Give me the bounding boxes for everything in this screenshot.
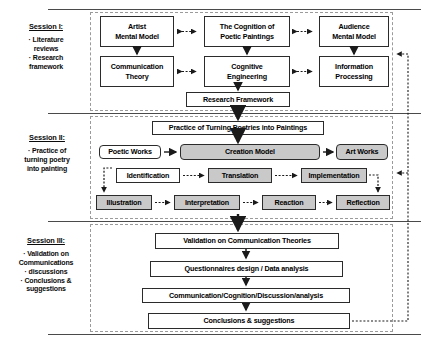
session-2-bullet-0-line-1: turning poetry — [6, 156, 88, 165]
session-3-bullet-1-line-0: · discussions — [2, 268, 90, 277]
node-reflection[interactable]: Reflection — [336, 195, 390, 210]
session-2-bullet-0-line-0: · Practice of — [6, 147, 88, 156]
session-1-title: Session I: — [6, 22, 86, 31]
session-3-caption: Session III: · Validation on Communicati… — [2, 236, 90, 294]
node-poetic-works[interactable]: Poetic Works — [99, 145, 161, 159]
node-research-framework[interactable]: Research Framework — [186, 92, 290, 107]
session-divider-bottom — [48, 334, 421, 335]
node-reaction[interactable]: Reaction — [262, 195, 316, 210]
session-3-bullet-0-line-0: · Validation on — [2, 250, 90, 259]
session-divider-1-2 — [48, 113, 421, 114]
session-divider-top — [48, 9, 421, 10]
session-3-bullet-2-line-0: · Conclusions & — [2, 277, 90, 286]
session-3-bullet-0-line-1: Communications — [2, 259, 90, 268]
node-communication-theory[interactable]: CommunicationTheory — [100, 56, 174, 87]
session-1-caption: Session I: · Literature reviews · Resear… — [6, 22, 86, 71]
node-cognition-poetic-paintings[interactable]: The Cognition ofPoetic Paintings — [204, 16, 290, 47]
session-1-bullet-1-line-1: framework — [6, 63, 86, 72]
node-validation-communication-theories[interactable]: Validation on Communication Theories — [155, 233, 339, 249]
node-audience-mental-model[interactable]: AudienceMental Model — [319, 16, 389, 47]
session-1-bullet-1-line-0: · Research — [6, 54, 86, 63]
node-communication-cognition-analysis[interactable]: Communication/Cognition/Discussion/analy… — [142, 288, 350, 303]
node-practice-turning-poetries[interactable]: Practice of Turning Poetries into Painti… — [152, 121, 324, 135]
node-translation[interactable]: Translation — [208, 168, 272, 183]
session-2-bullet-0-line-2: into painting — [6, 165, 88, 174]
session-2-title: Session II: — [6, 133, 88, 142]
node-information-processing[interactable]: InformationProcessing — [319, 56, 389, 87]
node-creation-model[interactable]: Creation Model — [180, 144, 320, 160]
session-2-caption: Session II: · Practice of turning poetry… — [6, 133, 88, 174]
node-artist-mental-model[interactable]: ArtistMental Model — [100, 16, 174, 47]
flow-diagram-canvas: Session I: · Literature reviews · Resear… — [0, 0, 421, 343]
node-art-works[interactable]: Art Works — [336, 144, 388, 160]
node-identification[interactable]: Identification — [116, 168, 180, 183]
session-3-bullet-2-line-1: suggestions — [2, 285, 90, 294]
node-illustration[interactable]: Illustration — [96, 195, 152, 210]
node-conclusions-suggestions[interactable]: Conclusions & suggestions — [148, 313, 350, 329]
node-questionnaires-design[interactable]: Questionnaires design / Data analysis — [150, 261, 343, 277]
session-1-bullet-0-line-0: · Literature — [6, 36, 86, 45]
session-divider-2-3 — [48, 221, 421, 222]
session-3-title: Session III: — [2, 236, 90, 245]
node-interpretation[interactable]: Interpretation — [174, 195, 240, 210]
session-1-bullet-0-line-1: reviews — [6, 45, 86, 54]
node-implementation[interactable]: Implementation — [301, 168, 367, 183]
node-cognitive-engineering[interactable]: CognitiveEngineering — [204, 56, 290, 87]
